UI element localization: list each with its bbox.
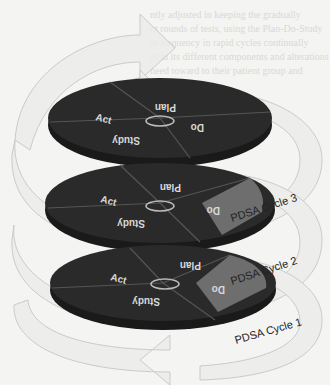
disc-bottom: Act Plan Do Study PDSA Cycle 2 <box>50 245 298 330</box>
disc-top: Act Plan Do Study <box>48 78 272 167</box>
segment-study: Study <box>117 218 145 229</box>
segment-plan: Plan <box>180 260 201 271</box>
segment-study: Study <box>112 135 140 146</box>
pdsa-diagram: Act Plan Do Study Act Plan Do Study PDSA… <box>0 0 330 385</box>
segment-plan: Plan <box>160 182 181 193</box>
segment-do: Do <box>212 284 225 295</box>
segment-plan: Plan <box>155 102 176 113</box>
segment-study: Study <box>132 296 160 307</box>
disc-middle: Act Plan Do Study PDSA Cycle 3 <box>45 163 298 252</box>
segment-do: Do <box>207 205 220 216</box>
segment-do: Do <box>191 122 204 133</box>
